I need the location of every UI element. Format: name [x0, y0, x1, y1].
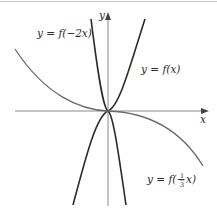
- fraction-numerator: 1: [180, 172, 184, 180]
- label-f-x: y = f(x): [140, 63, 180, 75]
- y-axis-label: y: [98, 9, 106, 21]
- label-f-neg-third-x: y = f(− 1 3 x): [146, 172, 196, 189]
- y-axis-arrow-icon: [105, 12, 111, 20]
- function-transformation-diagram: y x y = f(−2x) y = f(x) y = f(− 1 3 x): [0, 0, 217, 208]
- svg-text:x): x): [186, 173, 196, 185]
- label-f-neg2x: y = f(−2x): [36, 27, 92, 39]
- fraction-denominator: 3: [180, 181, 184, 189]
- x-axis-label: x: [200, 113, 206, 125]
